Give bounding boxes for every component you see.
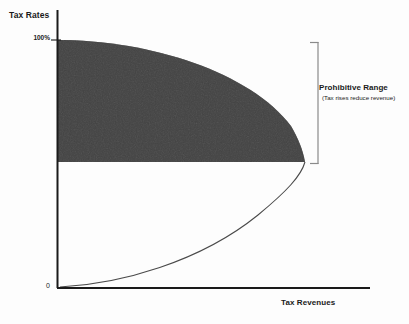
- prohibitive-range-sublabel: (Tax rises reduce revenue): [322, 95, 395, 102]
- prohibitive-range-shading: [57, 38, 307, 164]
- y-axis-tick-label-100: 100%: [0, 35, 50, 42]
- chart-canvas: [0, 0, 409, 324]
- x-axis-title: Tax Revenues: [281, 299, 335, 307]
- prohibitive-range-label: Prohibitive Range: [319, 84, 388, 92]
- laffer-curve-line: [60, 162, 305, 287]
- prohibitive-range-bracket: [310, 42, 319, 164]
- y-axis-tick-label-0: 0: [0, 282, 50, 289]
- y-axis-title: Tax Rates: [9, 11, 49, 20]
- laffer-curve-figure: Tax Rates 100% 0 Tax Revenues Prohibitiv…: [0, 0, 409, 324]
